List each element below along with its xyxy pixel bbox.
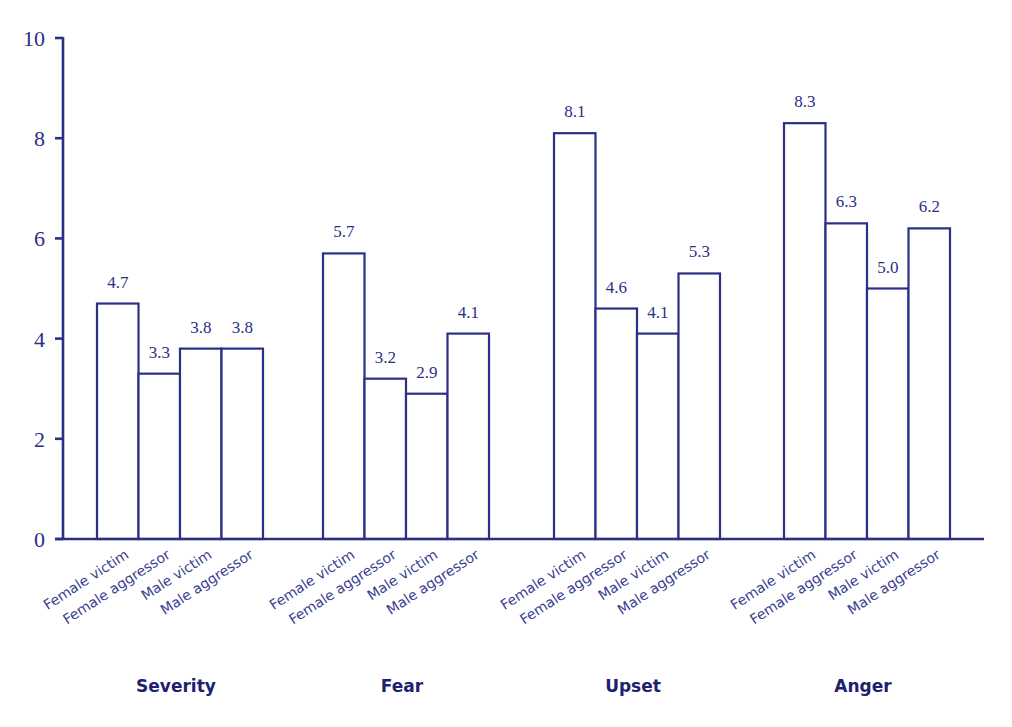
bar [180,349,222,539]
bar [867,289,909,540]
bar [323,253,365,539]
value-label: 6.3 [836,192,857,211]
y-tick-label: 10 [23,26,45,51]
bar [826,223,868,539]
value-label: 4.7 [107,273,129,292]
value-label: 5.7 [333,222,355,241]
bar [554,133,596,539]
value-label: 3.8 [232,318,253,337]
bar-group-anger: 8.3Female victim6.3Female aggressor5.0Ma… [728,92,950,696]
y-tick-label: 0 [34,527,45,552]
y-tick-label: 2 [34,427,45,452]
value-label: 5.3 [689,242,710,261]
group-label: Severity [136,676,216,696]
bar [909,228,951,539]
value-label: 4.1 [458,303,479,322]
value-label: 3.8 [190,318,211,337]
group-label: Upset [605,676,661,696]
bar [365,379,407,539]
value-label: 8.1 [564,102,585,121]
value-label: 8.3 [794,92,815,111]
bar-group-upset: 8.1Female victim4.6Female aggressor4.1Ma… [498,102,720,696]
y-tick-label: 6 [34,226,45,251]
value-label: 2.9 [416,363,437,382]
bar [139,374,181,539]
bar [97,304,139,539]
value-label: 5.0 [877,258,898,277]
bar [679,273,721,539]
group-label: Fear [381,676,424,696]
bar [637,334,679,539]
value-label: 6.2 [919,197,940,216]
y-axis: 0246810 [23,26,63,552]
y-tick-label: 8 [34,126,45,151]
y-tick-label: 4 [34,327,45,352]
value-label: 4.1 [647,303,668,322]
grouped-bar-chart: 0246810 4.7Female victim3.3Female aggres… [0,0,1012,727]
bar-group-severity: 4.7Female victim3.3Female aggressor3.8Ma… [41,273,263,696]
bar [222,349,264,539]
value-label: 4.6 [606,278,627,297]
bars: 4.7Female victim3.3Female aggressor3.8Ma… [41,92,950,696]
group-label: Anger [834,676,892,696]
value-label: 3.2 [375,348,396,367]
value-label: 3.3 [149,343,170,362]
bar [596,309,638,539]
bar-group-fear: 5.7Female victim3.2Female aggressor2.9Ma… [267,222,489,696]
bar [784,123,826,539]
bar [406,394,448,539]
bar [448,334,490,539]
